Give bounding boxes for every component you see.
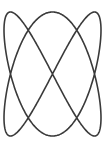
- lissajous-curve-svg: Lissajous curve figure: [0, 0, 108, 145]
- lissajous-curve-path: [4, 12, 101, 136]
- figure-canvas: Lissajous curve figure: [0, 0, 108, 145]
